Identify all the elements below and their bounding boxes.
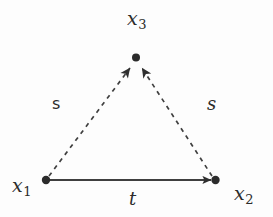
- vertex-label-x3: x3: [127, 9, 147, 31]
- vertex-label-x1: x1: [12, 176, 32, 198]
- edge-label-s-right: s: [207, 95, 216, 113]
- edge-label-t: t: [129, 190, 136, 208]
- vertex-x2-dot: [211, 176, 219, 184]
- vertex-label-x2: x2: [234, 184, 254, 206]
- edge-label-s-left: s: [52, 96, 60, 112]
- diagram-canvas: [0, 0, 273, 217]
- vertex-label-x2-base: x: [234, 182, 245, 204]
- vertex-x3-dot: [132, 54, 140, 62]
- vertex-label-x1-subscript: 1: [23, 184, 32, 199]
- edge-x2-x3-line: [142, 68, 212, 176]
- triangle-diagram: x3 x1 x2 s s t: [0, 0, 273, 217]
- vertex-label-x1-base: x: [12, 174, 23, 196]
- vertex-label-x3-base: x: [127, 7, 138, 29]
- vertex-label-x3-subscript: 3: [138, 17, 147, 32]
- vertex-x1-dot: [42, 176, 50, 184]
- vertex-label-x2-subscript: 2: [245, 192, 254, 207]
- edge-x1-x3-line: [49, 68, 130, 176]
